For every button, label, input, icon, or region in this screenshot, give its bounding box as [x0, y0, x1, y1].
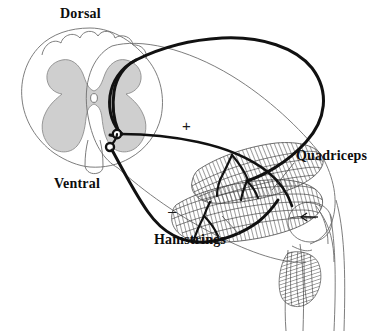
calf-muscle: [279, 250, 321, 310]
label-dorsal: Dorsal: [60, 6, 101, 22]
excitatory-sign: +: [182, 118, 191, 133]
spinal-cord-cross-section: [22, 28, 163, 174]
central-canal: [91, 94, 98, 103]
reflex-arc-figure: Dorsal Ventral Quadriceps Hamstrings + –: [0, 0, 382, 331]
knee-crease: [292, 246, 312, 251]
label-quadriceps: Quadriceps: [296, 148, 367, 164]
label-hamstrings: Hamstrings: [154, 232, 226, 248]
calf-belly: [279, 252, 321, 307]
label-ventral: Ventral: [54, 176, 100, 192]
lower-leg-anterior: [336, 200, 345, 331]
reflex-arc-drawing: [0, 0, 382, 331]
lower-leg-mid: [330, 214, 335, 331]
inhibitory-sign: –: [168, 203, 176, 218]
